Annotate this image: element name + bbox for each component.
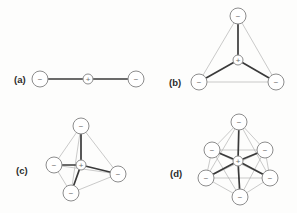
charge-cluster-diagram: +−−(a)+−−−(b)+−−−−(c)+−−−−−−(d) xyxy=(0,0,297,213)
panel-c-negative-sign-3: − xyxy=(69,189,74,198)
panel-c-negative-sign-2: − xyxy=(116,170,121,179)
panel-b: +−−−(b) xyxy=(169,8,284,90)
panel-a-positive-sign: + xyxy=(86,75,91,84)
panel-d: +−−−−−−(d) xyxy=(170,114,278,205)
panel-d-negative-sign-2: − xyxy=(263,146,268,155)
panel-d-negative-sign-3: − xyxy=(204,174,209,183)
panel-c: +−−−−(c) xyxy=(16,118,126,201)
panel-b-negative-sign-1: − xyxy=(197,78,202,87)
panel-b-label: (b) xyxy=(169,77,181,88)
panel-c-positive-sign: + xyxy=(79,161,84,170)
panel-d-negative-sign-5: − xyxy=(238,193,243,202)
panel-d-negative-sign-0: − xyxy=(237,118,242,127)
panel-b-edge-0 xyxy=(199,16,238,82)
panel-d-negative-sign-4: − xyxy=(268,174,273,183)
panel-a-negative-sign-1: − xyxy=(134,75,139,84)
panel-b-negative-sign-0: − xyxy=(236,12,241,21)
panel-d-positive-sign: + xyxy=(236,157,241,166)
panel-a-label: (a) xyxy=(14,74,26,85)
panel-d-negative-sign-1: − xyxy=(210,146,215,155)
panel-d-label: (d) xyxy=(170,168,182,179)
panel-c-edge-2 xyxy=(71,126,81,193)
panel-b-positive-sign: + xyxy=(236,56,241,65)
panel-b-negative-sign-2: − xyxy=(274,78,279,87)
panel-a: +−−(a) xyxy=(14,71,144,87)
panel-c-negative-sign-0: − xyxy=(79,122,84,131)
panel-c-negative-sign-1: − xyxy=(52,161,57,170)
panel-b-edge-1 xyxy=(238,16,276,82)
panel-c-label: (c) xyxy=(16,165,28,176)
panel-a-negative-sign-0: − xyxy=(38,75,43,84)
figure-canvas: +−−(a)+−−−(b)+−−−−(c)+−−−−−−(d) xyxy=(0,0,297,213)
